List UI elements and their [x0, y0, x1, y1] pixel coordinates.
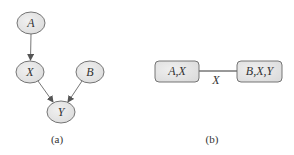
node-x-label: X [25, 65, 34, 79]
caption-b: (b) [206, 133, 219, 146]
clique-bxy-label: B,X,Y [246, 64, 275, 78]
separator-label: X [211, 73, 220, 87]
bayes-net-a: A X B Y (a) [16, 12, 104, 146]
edge-x-y [38, 81, 53, 102]
clique-ax: A,X [155, 61, 199, 82]
node-a-label: A [26, 16, 35, 30]
node-y: Y [47, 101, 75, 123]
caption-a: (a) [51, 133, 64, 146]
node-a: A [17, 12, 45, 34]
clique-tree-b: X A,X B,X,Y (b) [155, 61, 282, 146]
clique-bxy: B,X,Y [237, 61, 282, 82]
figure-canvas: A X B Y (a) X A,X B,X,Y (b) [0, 0, 294, 155]
edge-a-x [31, 34, 32, 60]
node-x: X [16, 61, 44, 83]
edge-b-y [68, 81, 82, 102]
clique-ax-label: A,X [167, 64, 186, 78]
node-b: B [76, 61, 104, 83]
node-b-label: B [86, 65, 94, 79]
